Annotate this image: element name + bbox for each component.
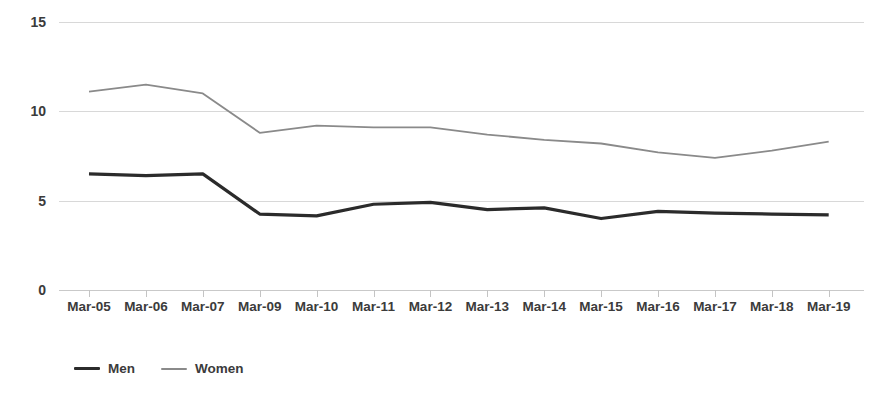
x-tick-mark: [772, 290, 773, 297]
x-tick-mark: [715, 290, 716, 297]
x-tick-mark: [601, 290, 602, 297]
series-container: [59, 22, 864, 290]
line-chart: 051015 Mar-05Mar-06Mar-07Mar-09Mar-10Mar…: [0, 0, 879, 405]
x-tick-label: Mar-06: [124, 300, 168, 315]
x-tick-mark: [374, 290, 375, 297]
series-line-women: [89, 85, 829, 158]
x-tick-label: Mar-16: [636, 300, 680, 315]
y-tick-label: 15: [2, 15, 46, 29]
legend-label: Women: [195, 362, 244, 376]
x-tick-mark: [146, 290, 147, 297]
x-tick-mark: [487, 290, 488, 297]
x-tick-mark: [89, 290, 90, 297]
x-tick-mark: [544, 290, 545, 297]
x-tick-label: Mar-18: [750, 300, 794, 315]
x-tick-mark: [260, 290, 261, 297]
x-tick-mark: [430, 290, 431, 297]
x-tick-mark: [203, 290, 204, 297]
x-tick-label: Mar-05: [67, 300, 111, 315]
series-line-men: [89, 174, 829, 219]
x-tick-mark: [829, 290, 830, 297]
legend-item-men[interactable]: Men: [74, 362, 135, 376]
legend-swatch-icon: [74, 367, 100, 370]
legend-swatch-icon: [161, 368, 187, 370]
y-tick-label: 0: [2, 283, 46, 297]
x-tick-label: Mar-13: [466, 300, 510, 315]
y-axis: 051015: [0, 22, 46, 290]
chart-legend: MenWomen: [74, 362, 244, 376]
y-tick-label: 5: [2, 194, 46, 208]
x-tick-label: Mar-19: [807, 300, 851, 315]
plot-area: [59, 22, 864, 290]
x-tick-label: Mar-07: [181, 300, 225, 315]
legend-item-women[interactable]: Women: [161, 362, 244, 376]
legend-label: Men: [108, 362, 135, 376]
x-tick-mark: [658, 290, 659, 297]
x-tick-label: Mar-15: [579, 300, 623, 315]
x-tick-mark: [317, 290, 318, 297]
x-tick-label: Mar-12: [409, 300, 453, 315]
x-axis: Mar-05Mar-06Mar-07Mar-09Mar-10Mar-11Mar-…: [59, 290, 864, 330]
y-tick-label: 10: [2, 104, 46, 118]
x-tick-label: Mar-10: [295, 300, 339, 315]
x-tick-label: Mar-14: [522, 300, 566, 315]
x-tick-label: Mar-09: [238, 300, 282, 315]
x-tick-label: Mar-11: [352, 300, 395, 315]
x-tick-label: Mar-17: [693, 300, 737, 315]
